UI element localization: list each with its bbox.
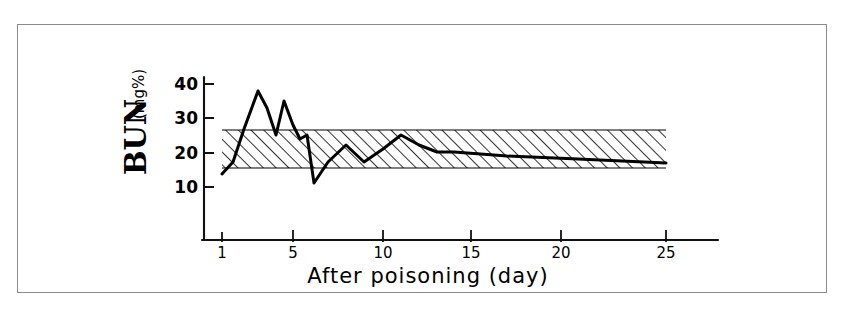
y-tick-label-40: 40	[174, 74, 198, 94]
normal-range-band	[222, 130, 666, 168]
x-tick-label-10: 10	[373, 244, 392, 262]
x-axis: 1 5 10 15 20 25	[202, 230, 718, 262]
chart-canvas: 40 30 20 10 BUN (mg%) 1 5 1	[18, 25, 826, 292]
screenshot-page: 40 30 20 10 BUN (mg%) 1 5 1	[0, 0, 844, 314]
y-axis-title-unit: (mg%)	[130, 69, 148, 119]
y-axis: 40 30 20 10	[174, 74, 214, 240]
y-tick-label-30: 30	[174, 108, 198, 128]
x-tick-label-15: 15	[461, 244, 480, 262]
x-tick-label-1: 1	[217, 244, 227, 262]
x-tick-label-5: 5	[288, 244, 298, 262]
y-tick-label-10: 10	[174, 177, 198, 197]
y-axis-title: BUN (mg%)	[119, 69, 153, 175]
x-tick-label-20: 20	[551, 244, 570, 262]
x-tick-label-25: 25	[656, 244, 675, 262]
figure-frame: 40 30 20 10 BUN (mg%) 1 5 1	[17, 24, 827, 293]
y-tick-label-20: 20	[174, 143, 198, 163]
band-hatch-fill	[222, 130, 666, 168]
x-axis-title: After poisoning (day)	[307, 264, 548, 288]
